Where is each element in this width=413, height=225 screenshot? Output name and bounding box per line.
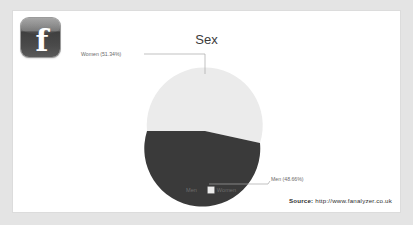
source-url: http://www.fanalyzer.co.uk — [315, 197, 392, 204]
source-attribution: Source: http://www.fanalyzer.co.uk — [289, 197, 392, 204]
legend-item-men[interactable]: Men — [177, 187, 197, 193]
pie-slice-men — [144, 131, 260, 207]
callout-label-women: Women (51.34%) — [81, 51, 121, 57]
callout-label-men: Men (48.66%) — [271, 176, 304, 182]
chart-card: f Sex Women (51.34%) Men (48.66%) M — [13, 11, 400, 212]
pie-chart: Women (51.34%) Men (48.66%) — [13, 11, 400, 212]
screenshot-root: f Sex Women (51.34%) Men (48.66%) M — [0, 0, 413, 225]
legend-item-women[interactable]: Women — [208, 187, 236, 193]
legend-swatch-men — [177, 187, 183, 193]
legend-label-men: Men — [186, 187, 197, 193]
chart-legend: Men Women — [13, 187, 400, 193]
legend-label-women: Women — [217, 187, 236, 193]
legend-swatch-women — [208, 187, 214, 193]
source-label: Source: — [289, 197, 313, 204]
pie-chart-svg — [13, 11, 400, 212]
